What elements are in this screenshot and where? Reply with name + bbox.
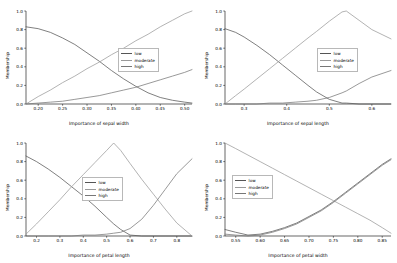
legend-item-high: high	[121, 64, 155, 69]
legend-swatch-moderate	[85, 189, 96, 190]
svg-text:0.4: 0.4	[215, 64, 222, 69]
svg-text:0.4: 0.4	[16, 196, 23, 201]
legend-item-moderate: moderate	[85, 187, 119, 192]
legend-label-moderate: moderate	[135, 58, 155, 63]
legend-label-low: low	[334, 51, 341, 56]
svg-text:0.0: 0.0	[215, 102, 222, 107]
svg-text:0.6: 0.6	[369, 106, 376, 111]
svg-text:0.6: 0.6	[215, 178, 222, 183]
svg-text:0.85: 0.85	[378, 238, 388, 243]
legend-item-high: high	[85, 193, 119, 198]
subplot-bottom-right: 0.00.20.40.60.81.00.550.600.650.700.750.…	[199, 132, 397, 263]
x-axis-label-top-right: Importance of sepal length	[199, 121, 397, 126]
legend-swatch-high	[320, 66, 331, 67]
axes-top-right: 0.00.20.40.60.81.00.30.40.50.6	[199, 0, 397, 131]
legend-label-low: low	[249, 178, 256, 183]
svg-text:0.80: 0.80	[353, 238, 363, 243]
legend-swatch-low	[320, 53, 331, 54]
svg-text:0.7: 0.7	[150, 238, 157, 243]
legend-swatch-high	[121, 66, 132, 67]
x-axis-label-bottom-left: Importance of petal length	[0, 253, 198, 258]
legend-swatch-low	[235, 180, 246, 181]
legend-label-low: low	[99, 180, 106, 185]
svg-text:0.2: 0.2	[215, 215, 222, 220]
svg-text:1.0: 1.0	[215, 141, 222, 146]
svg-text:0.4: 0.4	[283, 106, 290, 111]
svg-text:1.0: 1.0	[16, 9, 23, 14]
svg-text:0.6: 0.6	[16, 46, 23, 51]
legend-item-low: low	[235, 178, 269, 183]
legend-item-moderate: moderate	[320, 58, 354, 63]
legend-swatch-low	[121, 53, 132, 54]
legend-label-moderate: moderate	[99, 187, 119, 192]
svg-text:0.5: 0.5	[103, 238, 110, 243]
legend-swatch-low	[85, 182, 96, 183]
svg-text:0.40: 0.40	[131, 106, 141, 111]
svg-text:0.2: 0.2	[16, 83, 23, 88]
svg-text:0.75: 0.75	[329, 238, 339, 243]
legend-swatch-moderate	[320, 60, 331, 61]
svg-text:0.4: 0.4	[80, 238, 87, 243]
legend-swatch-high	[235, 193, 246, 194]
svg-text:0.0: 0.0	[16, 234, 23, 239]
subplot-top-left: 0.00.20.40.60.81.00.200.250.300.350.400.…	[0, 0, 198, 131]
svg-text:0.2: 0.2	[215, 83, 222, 88]
legend-label-high: high	[135, 64, 144, 69]
legend-bottom-left: low moderate high	[82, 177, 123, 201]
legend-label-moderate: moderate	[249, 185, 269, 190]
legend-item-low: low	[85, 180, 119, 185]
svg-text:1.0: 1.0	[215, 9, 222, 14]
subplot-bottom-left: 0.00.20.40.60.81.00.20.30.40.50.60.70.8 …	[0, 132, 198, 263]
legend-label-high: high	[249, 191, 258, 196]
svg-text:0.8: 0.8	[173, 238, 180, 243]
x-axis-label-bottom-right: Importance of petal width	[199, 253, 397, 258]
legend-item-moderate: moderate	[121, 58, 155, 63]
legend-label-high: high	[99, 193, 108, 198]
svg-text:0.60: 0.60	[255, 238, 265, 243]
svg-text:0.25: 0.25	[58, 106, 68, 111]
x-axis-label-top-left: Importance of sepal width	[0, 121, 198, 126]
svg-text:0.6: 0.6	[127, 238, 134, 243]
svg-text:0.65: 0.65	[280, 238, 290, 243]
figure-canvas: 0.00.20.40.60.81.00.200.250.300.350.400.…	[0, 0, 397, 263]
legend-bottom-right: low moderate high	[232, 175, 273, 199]
svg-text:0.20: 0.20	[34, 106, 44, 111]
svg-text:0.3: 0.3	[241, 106, 248, 111]
axes-top-left: 0.00.20.40.60.81.00.200.250.300.350.400.…	[0, 0, 198, 131]
svg-text:0.6: 0.6	[16, 178, 23, 183]
y-axis-label-top-left: Membership	[1, 0, 13, 131]
legend-top-left: low moderate high	[118, 48, 159, 72]
legend-item-moderate: moderate	[235, 185, 269, 190]
svg-text:0.0: 0.0	[16, 102, 23, 107]
svg-text:0.8: 0.8	[16, 27, 23, 32]
y-axis-label-bottom-left: Membership	[1, 132, 13, 263]
legend-swatch-moderate	[121, 60, 132, 61]
svg-text:0.45: 0.45	[156, 106, 166, 111]
axes-bottom-right: 0.00.20.40.60.81.00.550.600.650.700.750.…	[199, 132, 397, 263]
legend-swatch-moderate	[235, 187, 246, 188]
svg-text:0.8: 0.8	[215, 159, 222, 164]
legend-top-right: low moderate high	[317, 48, 358, 72]
legend-swatch-high	[85, 195, 96, 196]
y-axis-label-top-right: Membership	[200, 0, 212, 131]
svg-text:0.50: 0.50	[180, 106, 190, 111]
svg-text:0.2: 0.2	[33, 238, 40, 243]
svg-text:0.0: 0.0	[215, 234, 222, 239]
svg-text:0.35: 0.35	[107, 106, 117, 111]
legend-item-high: high	[320, 64, 354, 69]
svg-text:0.6: 0.6	[215, 46, 222, 51]
legend-item-low: low	[121, 51, 155, 56]
legend-item-high: high	[235, 191, 269, 196]
svg-text:0.5: 0.5	[326, 106, 333, 111]
svg-text:0.4: 0.4	[16, 64, 23, 69]
svg-text:0.3: 0.3	[57, 238, 64, 243]
svg-text:0.30: 0.30	[82, 106, 92, 111]
legend-label-high: high	[334, 64, 343, 69]
y-axis-label-bottom-right: Membership	[200, 132, 212, 263]
legend-label-moderate: moderate	[334, 58, 354, 63]
legend-item-low: low	[320, 51, 354, 56]
svg-text:0.4: 0.4	[215, 196, 222, 201]
legend-label-low: low	[135, 51, 142, 56]
svg-text:0.8: 0.8	[16, 159, 23, 164]
svg-text:0.2: 0.2	[16, 215, 23, 220]
